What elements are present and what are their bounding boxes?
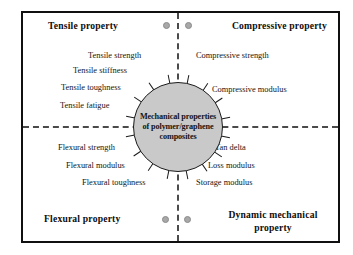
marker-dot-tensile — [163, 22, 170, 29]
marker-dot-dynamic-mechanical — [184, 216, 191, 223]
property-label-storage-modulus: Storage modulus — [196, 178, 253, 187]
radial-spoke — [202, 164, 208, 172]
property-label-compressive-strength: Compressive strength — [196, 51, 269, 60]
property-label-flexural-toughness: Flexural toughness — [82, 178, 146, 187]
property-label-tensile-fatigue: Tensile fatigue — [60, 101, 109, 110]
diagram-canvas: Mechanical properties of polymer/graphen… — [0, 0, 353, 255]
quadrant-title-tensile: Tensile property — [48, 20, 118, 31]
marker-dot-flexural — [162, 216, 169, 223]
quadrant-title-dynamic-mechanical: Dynamic mechanical property — [213, 209, 333, 234]
center-hub-label: Mechanical properties of polymer/graphen… — [136, 112, 220, 143]
center-hub-circle: Mechanical properties of polymer/graphen… — [133, 82, 223, 172]
quadrant-title-compressive: Compressive property — [232, 20, 327, 31]
quadrant-title-flexural: Flexural property — [44, 213, 121, 224]
property-label-tensile-stiffness: Tensile stiffness — [73, 66, 127, 75]
radial-spoke — [214, 151, 222, 157]
property-label-flexural-strength: Flexural strength — [58, 143, 115, 152]
marker-dot-compressive — [185, 22, 192, 29]
property-label-compressive-modulus: Compressive modulus — [212, 85, 287, 94]
property-label-flexural-modulus: Flexural modulus — [66, 161, 125, 170]
property-label-tensile-toughness: Tensile toughness — [61, 83, 121, 92]
property-label-tensile-strength: Tensile strength — [88, 51, 141, 60]
